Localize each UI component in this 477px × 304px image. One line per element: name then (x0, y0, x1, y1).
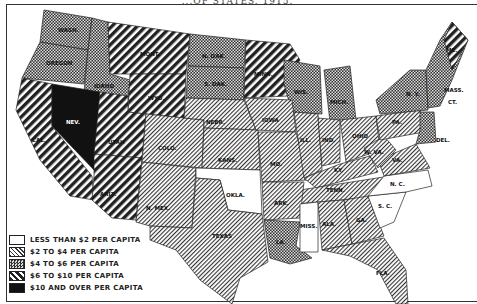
label-ny: N. Y. (406, 91, 420, 97)
label-sdak: S. DAK. (204, 81, 227, 87)
label-oregon: OREGON (46, 60, 73, 66)
legend-item-lt2: LESS THAN $2 PER CAPITA (9, 234, 143, 246)
label-kans: KANS. (218, 157, 237, 163)
label-wyo: WYO. (148, 95, 165, 101)
label-cal: CAL. (32, 137, 46, 143)
label-colo: COLO. (158, 145, 177, 151)
state-nmex (136, 162, 196, 228)
swatch-fine-hatch-icon (9, 247, 25, 257)
label-ndak: N. DAK. (202, 53, 226, 59)
label-fla: FLA. (376, 270, 390, 276)
label-idaho: IDAHO (94, 83, 114, 89)
state-kans (202, 128, 260, 170)
label-sc: S. C. (378, 203, 392, 209)
label-iowa: IOWA (262, 117, 280, 123)
legend-item-4to6: $4 TO $6 PER CAPITA (9, 258, 143, 270)
legend-item-2to4: $2 TO $4 PER CAPITA (9, 246, 143, 258)
legend-item-6to10: $6 TO $10 PER CAPITA (9, 270, 143, 282)
label-mont: MONT. (140, 51, 160, 57)
label-ga: GA. (356, 217, 367, 223)
label-nc: N. C. (390, 181, 405, 187)
state-ariz (92, 154, 142, 220)
state-mont (108, 22, 190, 74)
label-la: LA. (276, 239, 286, 245)
label-mass: MASS. (444, 87, 464, 93)
label-me: ME. (446, 47, 457, 53)
label-ind: IND. (322, 137, 335, 143)
label-ky: KY. (334, 167, 343, 173)
label-okla: OKLA. (226, 192, 245, 198)
label-pa: PA. (392, 119, 402, 125)
swatch-blank-icon (9, 235, 25, 245)
label-wva: W. VA. (364, 149, 384, 155)
label-mo: MO. (270, 161, 282, 167)
state-pa (376, 110, 424, 140)
state-ndak (188, 34, 246, 68)
label-nebr: NEBR. (206, 119, 225, 125)
label-ariz: ARIZ. (100, 191, 117, 197)
label-va: VA. (392, 157, 402, 163)
label-texas: TEXAS (212, 233, 232, 239)
state-colo (142, 114, 204, 168)
state-fla (322, 238, 408, 304)
swatch-solid-icon (9, 283, 25, 293)
legend: LESS THAN $2 PER CAPITA $2 TO $4 PER CAP… (9, 234, 143, 294)
swatch-checker-icon (9, 259, 25, 269)
swatch-bold-hatch-icon (9, 271, 25, 281)
label-tenn: TENN. (326, 187, 345, 193)
label-minn: MINN. (254, 71, 273, 77)
label-ala: ALA. (322, 221, 336, 227)
label-ark: ARK. (274, 200, 289, 206)
label-ct: CT. (448, 99, 457, 105)
label-wash: WASH. (58, 27, 79, 33)
label-utah: UTAH (108, 139, 125, 145)
label-wis: WIS. (294, 89, 308, 95)
label-ill: ILL. (300, 137, 311, 143)
legend-item-10plus: $10 AND OVER PER CAPITA (9, 282, 143, 294)
label-miss: MISS. (300, 223, 317, 229)
label-ohio: OHIO (352, 133, 368, 139)
label-mich: MICH. (330, 99, 348, 105)
label-del: DEL. (436, 137, 450, 143)
label-nmex: N. MEX. (146, 205, 170, 211)
state-mich (324, 66, 356, 122)
label-nev: NEV. (66, 119, 80, 125)
state-ny (376, 70, 428, 114)
